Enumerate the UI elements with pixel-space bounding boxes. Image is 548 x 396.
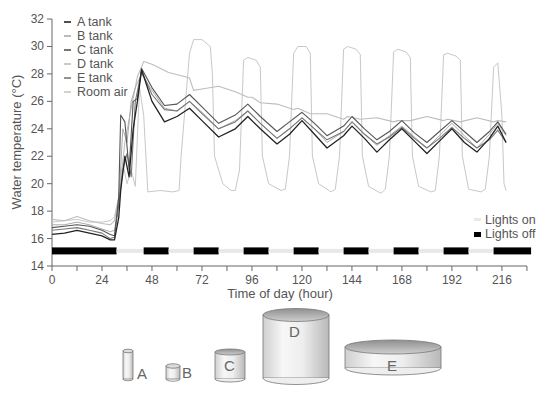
light-bar-off — [344, 247, 369, 254]
tank-d-label: D — [289, 323, 300, 340]
light-legend-swatch — [474, 232, 481, 237]
tank-e-icon: E — [345, 340, 441, 375]
light-legend-swatch — [474, 218, 481, 221]
y-tick-label: 24 — [31, 122, 45, 136]
y-tick-label: 32 — [31, 12, 45, 26]
series-legend: A tankB tankC tankD tankE tankRoom air — [64, 15, 128, 99]
legend-label: Room air — [77, 85, 128, 99]
x-tick-label: 216 — [492, 273, 512, 287]
tank-b-label: B — [182, 364, 192, 381]
light-legend-label: Lights off — [485, 227, 536, 241]
x-tick-label: 144 — [342, 273, 362, 287]
light-bar-off — [52, 247, 117, 254]
tank-illustrations: A B C D E — [123, 309, 441, 385]
tank-b-icon: B — [166, 364, 192, 381]
tank-d-icon: D — [263, 309, 329, 385]
y-tick-label: 18 — [31, 204, 45, 218]
y-tick-label: 28 — [31, 67, 45, 81]
y-tick-label: 14 — [31, 259, 45, 273]
light-bar-off — [194, 247, 219, 254]
legend-label: A tank — [77, 15, 112, 29]
x-tick-label: 24 — [95, 273, 109, 287]
legend-label: B tank — [77, 29, 113, 43]
y-tick-label: 26 — [31, 94, 45, 108]
light-bar-on — [319, 249, 344, 253]
light-bar-off — [294, 247, 319, 254]
plot-lines — [52, 40, 506, 240]
temperature-chart: 14161820222426283032 0244872961201441681… — [0, 0, 548, 396]
light-bar-off — [444, 247, 469, 254]
tank-a-icon: A — [123, 349, 147, 382]
light-bar-on — [219, 249, 244, 253]
y-tick-label: 30 — [31, 39, 45, 53]
x-tick-label: 192 — [442, 273, 462, 287]
light-bar-on — [269, 249, 294, 253]
y-tick-label: 20 — [31, 177, 45, 191]
x-tick-label: 96 — [245, 273, 259, 287]
light-legend: Lights onLights off — [474, 213, 536, 241]
light-bar-off — [144, 247, 169, 254]
y-tick-label: 16 — [31, 232, 45, 246]
x-tick-label: 168 — [392, 273, 412, 287]
x-axis-title: Time of day (hour) — [227, 286, 333, 301]
light-bar-on — [369, 249, 394, 253]
legend-label: D tank — [77, 57, 114, 71]
x-tick-label: 48 — [145, 273, 159, 287]
legend-label: C tank — [77, 43, 114, 57]
light-bar-on — [419, 249, 444, 253]
x-tick-label: 72 — [195, 273, 209, 287]
legend-label: E tank — [77, 71, 113, 85]
x-axis: 024487296120144168192216 — [49, 266, 527, 287]
tank-a-label: A — [137, 365, 147, 382]
tank-c-icon: C — [215, 349, 245, 382]
x-tick-label: 120 — [292, 273, 312, 287]
light-bar — [52, 247, 531, 254]
light-legend-label: Lights on — [485, 213, 536, 227]
light-bar-on — [117, 249, 144, 253]
y-axis-title: Water temperature (°C) — [9, 75, 24, 210]
y-tick-label: 22 — [31, 149, 45, 163]
light-bar-on — [469, 249, 494, 253]
light-bar-on — [169, 249, 194, 253]
x-tick-label: 0 — [49, 273, 56, 287]
tank-c-label: C — [224, 357, 235, 374]
light-bar-off — [394, 247, 419, 254]
y-axis: 14161820222426283032 — [31, 12, 52, 273]
light-bar-off — [244, 247, 269, 254]
light-bar-off — [494, 247, 531, 254]
tank-e-label: E — [387, 357, 397, 374]
